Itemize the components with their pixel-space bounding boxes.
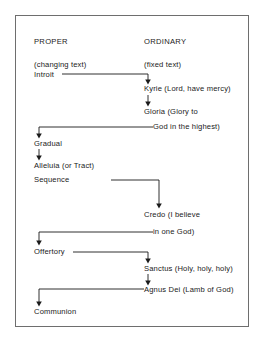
node-credo-line1: Credo (I believe: [144, 210, 200, 219]
node-gloria-line2: God in the highest): [153, 122, 220, 131]
column-heading-ordinary: ORDINARY: [144, 37, 186, 46]
node-kyrie: Kyrie (Lord, have mercy): [144, 84, 231, 93]
arrow-agnusdei-to-communion: [39, 289, 144, 304]
arrow-offertory-to-sanctus: [73, 252, 148, 261]
column-subheading-ordinary: (fixed text): [144, 60, 181, 69]
arrow-credo-to-offertory: [39, 232, 153, 243]
node-sanctus: Sanctus (Holy, holy, holy): [144, 264, 233, 273]
node-credo-line2: in one God): [153, 227, 194, 236]
node-sequence: Sequence: [34, 175, 69, 184]
node-gradual: Gradual: [34, 139, 62, 148]
arrow-sequence-to-credo: [111, 180, 159, 206]
node-communion: Communion: [34, 307, 76, 316]
column-subheading-proper: (changing text): [34, 60, 87, 69]
arrow-introit-to-kyrie: [62, 74, 148, 82]
node-agnus-dei: Agnus Dei (Lamb of God): [144, 285, 234, 294]
column-heading-proper: PROPER: [34, 37, 68, 46]
node-offertory: Offertory: [34, 247, 65, 256]
node-alleluia: Alleluia (or Tract): [34, 161, 94, 170]
node-introit: Introit: [34, 70, 54, 79]
node-gloria-line1: Gloria (Glory to: [144, 107, 198, 116]
arrow-gloria-to-gradual: [39, 127, 153, 136]
mass-structure-diagram: PROPER ORDINARY (changing text) (fixed t…: [15, 15, 249, 327]
